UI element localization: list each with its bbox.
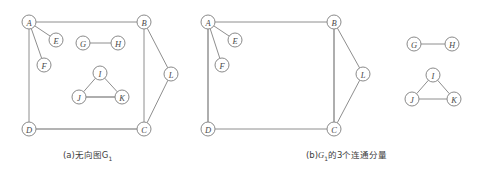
graph-node: I — [93, 66, 107, 80]
caption-a-subscript: 1 — [108, 155, 112, 162]
graph-edge — [147, 80, 168, 122]
graph-edge — [438, 80, 450, 93]
graph-node: H — [445, 37, 459, 51]
graph-figure: ABCDEFGHIJKLABCDEFLGHIJK (a)无向图G1 (b)G1的… — [0, 0, 482, 173]
graph-node: D — [201, 122, 215, 136]
graph-node: F — [37, 58, 51, 72]
node-label: B — [331, 18, 336, 28]
node-label: G — [80, 39, 86, 49]
caption-panel-a: (a)无向图G1 — [63, 148, 112, 162]
graph-edge — [31, 29, 41, 59]
node-label: C — [331, 125, 337, 135]
graph-edge — [417, 80, 429, 93]
node-label: L — [168, 70, 174, 80]
graph-node: K — [115, 90, 129, 104]
graph-edge — [147, 28, 168, 68]
graph-node: B — [327, 15, 341, 29]
graph-node: J — [405, 92, 419, 106]
graph-node: K — [447, 92, 461, 106]
graph-edge — [35, 26, 50, 36]
node-label: H — [448, 40, 456, 50]
graph-node: D — [22, 122, 36, 136]
graph-node: I — [426, 68, 440, 82]
graph-node: J — [72, 90, 86, 104]
node-label: F — [218, 61, 225, 71]
graph-edge — [214, 26, 229, 36]
graph-node: E — [228, 33, 242, 47]
caption-b-prefix: (b) — [306, 150, 318, 160]
graph-node: E — [49, 33, 63, 47]
graph-node: C — [137, 122, 151, 136]
graph-node: C — [327, 122, 341, 136]
node-label: C — [141, 125, 147, 135]
node-label: B — [141, 18, 146, 28]
nodes-layer: ABCDEFGHIJKLABCDEFLGHIJK — [22, 15, 461, 136]
graph-edge — [84, 78, 96, 91]
graph-edge — [337, 28, 359, 68]
node-label: L — [360, 70, 366, 80]
graph-node: L — [356, 67, 370, 81]
graph-edge — [337, 80, 359, 123]
graph-edge — [105, 78, 118, 92]
node-label: D — [25, 125, 33, 135]
node-label: D — [204, 125, 212, 135]
graph-node: H — [111, 36, 125, 50]
node-label: F — [40, 61, 47, 71]
caption-a-text: (a)无向图G — [63, 150, 108, 160]
graph-edge — [210, 29, 220, 59]
caption-b-suffix: 的3个连通分量 — [328, 150, 387, 160]
graph-node: G — [407, 37, 421, 51]
node-label: H — [114, 39, 122, 49]
graph-node: G — [76, 36, 90, 50]
node-label: E — [52, 36, 59, 46]
graph-node: B — [137, 15, 151, 29]
caption-panel-b: (b)G1的3个连通分量 — [306, 148, 387, 162]
node-label: G — [411, 40, 417, 50]
graph-node: A — [22, 15, 36, 29]
node-label: E — [231, 36, 238, 46]
node-label: A — [25, 18, 32, 28]
graph-node: A — [201, 15, 215, 29]
node-label: A — [204, 18, 211, 28]
graph-node: L — [164, 67, 178, 81]
graph-node: F — [215, 58, 229, 72]
